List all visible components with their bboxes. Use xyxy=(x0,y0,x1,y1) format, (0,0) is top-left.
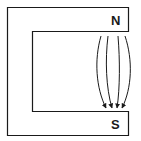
south-pole-label: S xyxy=(111,117,120,132)
field-line xyxy=(122,36,130,108)
field-line xyxy=(117,36,119,108)
field-lines xyxy=(97,36,130,108)
magnet-diagram: N S xyxy=(0,0,141,141)
field-line xyxy=(97,36,106,108)
north-pole-label: N xyxy=(111,13,120,28)
field-line xyxy=(106,36,112,108)
